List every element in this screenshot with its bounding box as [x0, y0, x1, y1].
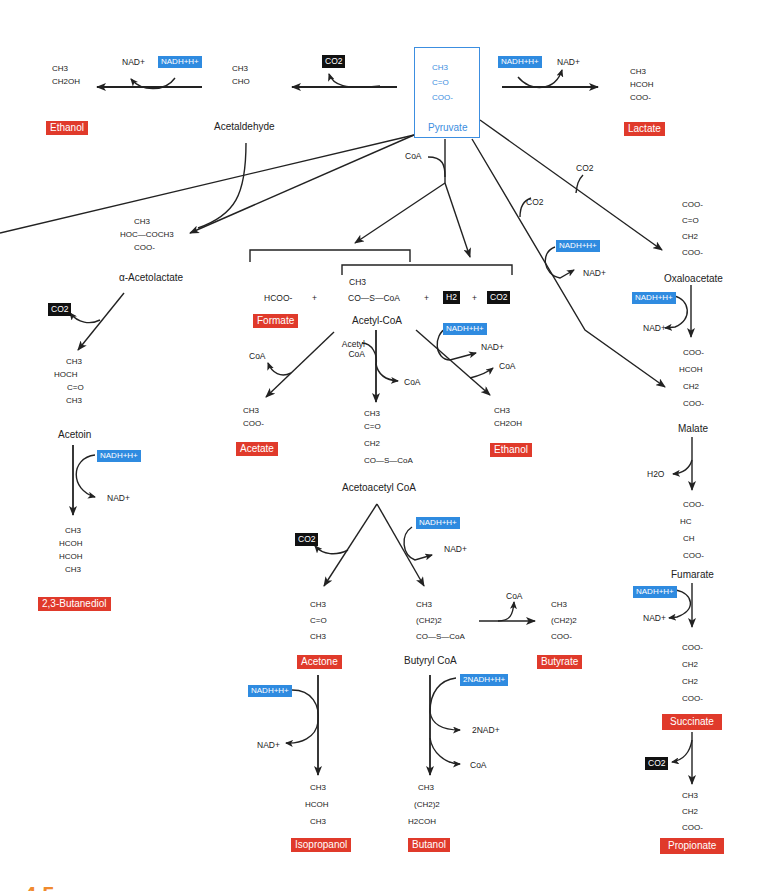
acetone-structure: CH3 C=O CH3 [310, 601, 327, 646]
product-label-butanediol: 2,3-Butanediol [38, 597, 111, 611]
butanol-structure: CH3 (CH2)2 H2COH [408, 784, 440, 831]
acetate-structure: CH3 COO- [243, 407, 264, 433]
struct-row: H2COH [408, 818, 440, 831]
struct-row: CH2OH [494, 420, 522, 433]
ethanol-structure-lower: CH3 CH2OH [494, 407, 522, 433]
struct-row: COO- [682, 695, 703, 708]
malate-name: Malate [678, 424, 708, 434]
lactate-structure: CH3 HCOH COO- [630, 68, 654, 107]
acetoacetyl-coa-structure: CH3 C=O CH2 CO—S—CoA [364, 410, 413, 470]
nad-out-malate-branch: NAD+ [583, 269, 606, 278]
butyryl-coa-structure: CH3 (CH2)2 CO—S—CoA [416, 601, 465, 646]
struct-row: CH [680, 535, 704, 552]
nadh-in-malate: NADH+H+ [632, 292, 676, 304]
nadh-in-malate-branch: NADH+H+ [556, 240, 600, 252]
fumarate-structure: COO- HC CH COO- [680, 501, 704, 565]
struct-row: C=O [364, 423, 413, 440]
co2-in-malate-branch: CO2 [526, 198, 543, 207]
struct-row: CH2 [682, 233, 703, 249]
butanediol-structure: CH3 HCOH HCOH CH3 [59, 527, 83, 579]
product-label-succinate: Succinate [662, 714, 722, 730]
acetaldehyde-name: Acetaldehyde [214, 122, 275, 132]
formate-structure: HCOO- [264, 294, 292, 303]
struct-row: CH3 [305, 818, 329, 831]
oxaloacetate-structure: COO- C=O CH2 COO- [682, 201, 703, 262]
coa-in-pyruvate: CoA [405, 152, 422, 161]
pyruvate-carbonyl: C=O [432, 79, 453, 94]
plus-sign: + [424, 294, 429, 303]
struct-row: C=O [310, 617, 327, 633]
product-label-butyrate: Butyrate [537, 655, 582, 669]
nadh-in-ethanol-top: NADH+H+ [158, 56, 202, 68]
coa-out-butyrate: CoA [506, 592, 523, 601]
acetolactate-structure: CH3 HOC—COCH3 COO- [120, 218, 174, 257]
struct-row: (CH2)2 [416, 617, 465, 633]
coa-out-condensation: CoA [404, 378, 421, 387]
struct-row: CH3 [408, 784, 440, 801]
struct-row: COO- [120, 244, 174, 257]
struct-row: HCOH [305, 801, 329, 818]
plus-sign: + [312, 294, 317, 303]
co2-gas-propionate: CO2 [645, 757, 668, 770]
product-label-formate: Formate [253, 314, 298, 328]
coa-out-acetate: CoA [249, 352, 266, 361]
plus-sign: + [472, 294, 477, 303]
nadh-in-lactate: NADH+H+ [498, 56, 542, 68]
acetyl-coa-in-condensation: Acetyl CoA [337, 340, 365, 360]
pyruvate-carboxylate: COO- [432, 94, 453, 109]
struct-row: CH2 [682, 661, 703, 678]
struct-row: CH2 [364, 440, 413, 457]
struct-row: CH2 [679, 383, 704, 400]
struct-row: COO- [679, 349, 704, 366]
butyrate-structure: CH3 (CH2)2 COO- [551, 601, 577, 646]
co2-gas-acetone: CO2 [295, 533, 318, 546]
struct-row: CO—S—CoA [364, 457, 413, 470]
struct-row: CH2 [682, 678, 703, 695]
acetolactate-name: α-Acetolactate [119, 273, 183, 283]
acetyl-coa-thioester: CO—S—CoA [348, 294, 400, 303]
struct-row: COO- [680, 552, 704, 565]
nad-out-ethanol-top: NAD+ [122, 58, 145, 67]
pyruvate-structure: CH3 C=O COO- [432, 64, 453, 109]
figure-number: 4.5 [24, 884, 55, 891]
nad-out-isopropanol: NAD+ [257, 741, 280, 750]
struct-row: COO- [243, 420, 264, 433]
nadh-in-succinate: NADH+H+ [633, 586, 677, 598]
product-label-lactate: Lactate [624, 122, 665, 136]
nad-out-butyryl: NAD+ [444, 545, 467, 554]
succinate-structure: COO- CH2 CH2 COO- [682, 644, 703, 708]
nad-out-butanediol: NAD+ [107, 494, 130, 503]
co2-gas-acetyl-coa: CO2 [487, 291, 510, 304]
water-out-fumarate: H2O [647, 470, 664, 479]
nad-out-lactate: NAD+ [557, 58, 580, 67]
acetoin-name: Acetoin [58, 430, 91, 440]
struct-row: CH3 [59, 566, 83, 579]
struct-row: COO- [682, 201, 703, 217]
struct-row: CH2 [682, 808, 703, 824]
struct-row: (CH2)2 [551, 617, 577, 633]
product-label-acetone: Acetone [297, 655, 342, 669]
product-label-ethanol-top: Ethanol [46, 121, 88, 135]
product-label-ethanol-lower: Ethanol [490, 443, 532, 457]
nadh-in-butyryl: NADH+H+ [416, 517, 460, 529]
struct-row: C=O [682, 217, 703, 233]
struct-row: COO- [682, 249, 703, 262]
nad-out-succinate: NAD+ [643, 614, 666, 623]
oxaloacetate-name: Oxaloacetate [664, 274, 723, 284]
struct-row: CH3 [310, 633, 327, 646]
struct-row: HCOH [679, 366, 704, 383]
acetoacetyl-coa-name: Acetoacetyl CoA [342, 483, 416, 493]
struct-row: HC [680, 518, 704, 535]
product-label-propionate: Propionate [660, 838, 724, 854]
co2-in-oxaloacetate-branch: CO2 [576, 164, 593, 173]
struct-row: CH2OH [52, 78, 80, 91]
struct-row: CHO [232, 78, 250, 91]
ethanol-structure-top: CH3 CH2OH [52, 65, 80, 91]
co2-gas-acetolactate: CO2 [48, 303, 71, 316]
struct-row: COO- [630, 94, 654, 107]
nadh-in-butanol: 2NADH+H+ [460, 674, 508, 686]
struct-row: COO- [551, 633, 577, 646]
struct-row: COO- [680, 501, 704, 518]
struct-row: COO- [682, 824, 703, 837]
nadh-in-ethanol-lower: NADH+H+ [443, 323, 487, 335]
